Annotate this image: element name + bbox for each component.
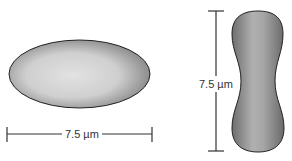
rbc-side-view (232, 11, 284, 152)
diagram-canvas (0, 0, 292, 161)
horizontal-dimension-label: 7.5 µm (62, 128, 102, 140)
rbc-top-view (9, 40, 150, 108)
vertical-dimension-label: 7.5 µm (199, 76, 233, 92)
